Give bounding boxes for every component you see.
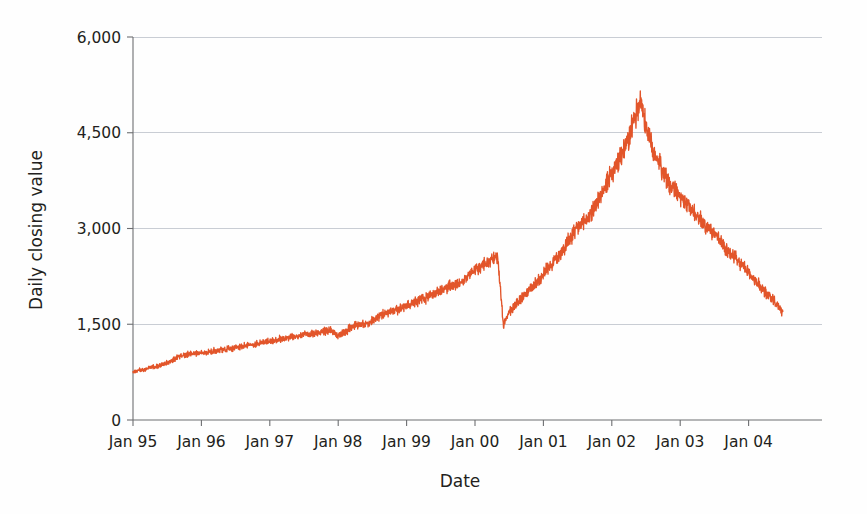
y-tick-labels-group: 01,5003,0004,5006,000 — [77, 29, 121, 430]
x-tick-labels-group: Jan 95Jan 96Jan 97Jan 98Jan 99Jan 00Jan … — [108, 433, 773, 451]
x-axis-title: Date — [440, 471, 481, 491]
y-tick-label: 6,000 — [77, 29, 121, 47]
x-tick-label: Jan 04 — [723, 433, 773, 451]
y-axis-title: Daily closing value — [26, 150, 46, 310]
x-tick-label: Jan 01 — [518, 433, 568, 451]
gridlines-group — [133, 37, 822, 324]
x-tick-label: Jan 96 — [176, 433, 226, 451]
tickmarks-group — [127, 37, 749, 426]
y-tick-label: 3,000 — [77, 220, 121, 238]
x-tick-label: Jan 99 — [381, 433, 431, 451]
x-tick-label: Jan 98 — [313, 433, 363, 451]
y-tick-label: 1,500 — [77, 316, 121, 334]
line-chart: 01,5003,0004,5006,000 Jan 95Jan 96Jan 97… — [0, 0, 867, 514]
x-tick-label: Jan 95 — [108, 433, 158, 451]
y-tick-label: 0 — [111, 412, 121, 430]
x-tick-label: Jan 03 — [655, 433, 705, 451]
x-tick-label: Jan 97 — [245, 433, 295, 451]
chart-container: 01,5003,0004,5006,000 Jan 95Jan 96Jan 97… — [0, 0, 867, 514]
x-tick-label: Jan 00 — [450, 433, 500, 451]
x-tick-label: Jan 02 — [587, 433, 637, 451]
y-tick-label: 4,500 — [77, 124, 121, 142]
